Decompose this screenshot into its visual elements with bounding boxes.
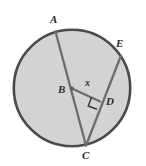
geometry-canvas — [0, 0, 146, 166]
point-label-D: D — [106, 96, 114, 107]
geometry-figure: A E B D C x — [0, 0, 146, 166]
point-label-C: C — [82, 150, 89, 161]
center-point-dot — [70, 87, 74, 91]
point-label-B: B — [58, 84, 65, 95]
point-label-A: A — [50, 14, 57, 25]
point-label-E: E — [116, 38, 123, 49]
angle-variable-label-x: x — [85, 78, 90, 88]
